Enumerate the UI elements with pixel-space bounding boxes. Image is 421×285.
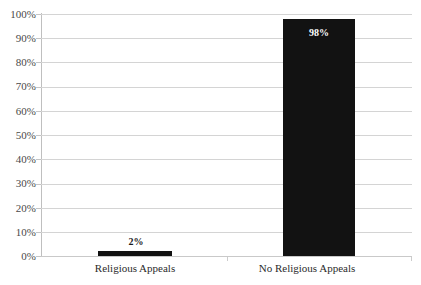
x-axis-tick bbox=[411, 257, 412, 261]
bar-religious-appeals[interactable] bbox=[98, 251, 172, 256]
gridline bbox=[41, 135, 412, 136]
y-axis-tick-label: 100% bbox=[0, 9, 36, 20]
gridline bbox=[41, 232, 412, 233]
bar-value-label: 2% bbox=[74, 237, 198, 247]
gridline bbox=[41, 87, 412, 88]
x-axis-category-label: No Religious Appeals bbox=[218, 263, 396, 274]
bar-chart: 100% 90% 80% 70% 60% 50% 40% 30% 20% 10%… bbox=[0, 0, 421, 285]
bar-no-religious-appeals[interactable]: 98% bbox=[283, 19, 355, 256]
bar-value-label: 98% bbox=[283, 28, 355, 38]
x-axis-tick bbox=[227, 257, 228, 261]
y-axis-tick-label: 40% bbox=[0, 154, 36, 165]
y-axis-tick-label: 60% bbox=[0, 106, 36, 117]
gridline bbox=[41, 38, 412, 39]
gridline bbox=[41, 184, 412, 185]
x-axis-category-label: Religious Appeals bbox=[60, 263, 210, 274]
y-axis-tick-label: 50% bbox=[0, 130, 36, 141]
gridline bbox=[41, 111, 412, 112]
y-axis-tick-label: 0% bbox=[0, 251, 36, 262]
y-axis-tick-label: 30% bbox=[0, 178, 36, 189]
gridline bbox=[41, 159, 412, 160]
gridline bbox=[41, 208, 412, 209]
y-axis-tick-label: 80% bbox=[0, 57, 36, 68]
gridline bbox=[41, 14, 412, 15]
gridline bbox=[41, 62, 412, 63]
y-axis-tick-label: 70% bbox=[0, 81, 36, 92]
plot-area: 98% bbox=[41, 14, 412, 256]
y-axis-tick-label: 10% bbox=[0, 227, 36, 238]
y-axis-tick-label: 90% bbox=[0, 33, 36, 44]
y-axis-tick-label: 20% bbox=[0, 203, 36, 214]
